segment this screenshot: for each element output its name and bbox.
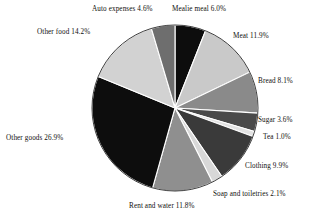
slice-label-other-goods: Other goods 26.9% xyxy=(6,135,63,142)
slice-label-tea: Tea 1.0% xyxy=(263,134,291,141)
pie-slices-group xyxy=(92,25,258,191)
slice-label-meat: Meat 11.9% xyxy=(233,33,269,40)
slice-label-soap-and-toiletries: Soap and toiletries 2.1% xyxy=(213,191,286,198)
slice-label-other-food: Other food 14.2% xyxy=(37,29,90,36)
slice-label-mealie-meal: Mealie meal 6.0% xyxy=(172,6,226,13)
slice-label-sugar: Sugar 3.6% xyxy=(258,117,293,124)
pie-chart: Mealie meal 6.0% Meat 11.9% Bread 8.1% S… xyxy=(0,0,320,215)
slice-label-clothing: Clothing 9.9% xyxy=(245,163,288,170)
slice-label-bread: Bread 8.1% xyxy=(258,78,293,85)
slice-label-auto-expenses: Auto expenses 4.6% xyxy=(92,6,153,13)
slice-label-rent-and-water: Rent and water 11.8% xyxy=(129,203,195,210)
